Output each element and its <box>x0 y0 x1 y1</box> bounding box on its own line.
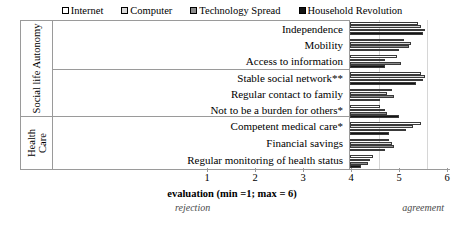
bar-row <box>350 103 450 120</box>
bar-2 <box>350 62 401 65</box>
legend-swatch-technology-spread <box>190 7 197 14</box>
group-row-social-life-autonomy: Social life Autonomy Independence Mobili… <box>21 21 349 117</box>
bar-0 <box>350 122 421 125</box>
category-label-mobility: Mobility <box>53 37 349 53</box>
bar-0 <box>350 155 373 158</box>
bar-row <box>350 87 450 104</box>
bar-0 <box>350 105 380 108</box>
group-title-health-care: Health Care <box>21 117 53 169</box>
category-label-competent-medical-care: Competent medical care* <box>53 118 349 134</box>
bars-container <box>350 20 450 170</box>
category-label-regular-monitoring: Regular monitoring of health status <box>53 152 349 168</box>
bar-1 <box>350 42 411 45</box>
legend-item-computer: Computer <box>121 5 172 16</box>
x-tickmark-3 <box>303 168 304 172</box>
x-tick-6: 6 <box>444 172 449 184</box>
group-title-label: Social life Autonomy <box>31 24 42 114</box>
bar-0 <box>350 22 418 25</box>
bar-0 <box>350 55 397 58</box>
bar-3 <box>350 115 399 118</box>
category-label-not-to-be-a-burden: Not to be a burden for others* <box>53 102 349 118</box>
chart-legend: Internet Computer Technology Spread Hous… <box>0 3 464 17</box>
legend-item-internet: Internet <box>62 5 104 16</box>
bar-2 <box>350 45 409 48</box>
legend-label-computer: Computer <box>130 5 172 16</box>
bars-area <box>350 20 450 170</box>
legend-item-household-revolution: Household Revolution <box>299 5 403 16</box>
bar-2 <box>350 129 406 132</box>
anchor-agreement: agreement <box>402 202 444 214</box>
group-category-list-social: Independence Mobility Access to informat… <box>53 21 349 116</box>
category-label-regular-contact-to-family: Regular contact to family <box>53 86 349 102</box>
bar-row <box>350 153 450 170</box>
group-category-list-health: Competent medical care* Financial saving… <box>53 117 349 169</box>
anchor-rejection: rejection <box>175 202 210 214</box>
bar-1 <box>350 125 413 128</box>
category-label-access-to-information: Access to information <box>53 53 349 69</box>
bar-1 <box>350 25 421 28</box>
bar-2 <box>350 29 425 32</box>
bar-row <box>350 137 450 154</box>
bar-1 <box>350 75 425 78</box>
bar-3 <box>350 49 399 52</box>
plot-area: Social life Autonomy Independence Mobili… <box>20 20 450 172</box>
bar-2 <box>350 95 394 98</box>
category-label-independence: Independence <box>53 21 349 37</box>
x-tick-3: 3 <box>300 172 305 184</box>
x-tickmark-6 <box>447 168 448 172</box>
axis-line-bottom <box>350 169 450 170</box>
bar-row <box>350 20 450 37</box>
bar-2 <box>350 162 368 165</box>
bar-2 <box>350 79 423 82</box>
x-tick-4: 4 <box>348 172 353 184</box>
x-tick-1: 1 <box>204 172 209 184</box>
category-label-stable-social-network: Stable social network** <box>53 69 349 86</box>
group-title-line-2: Care <box>37 133 48 153</box>
category-label-financial-savings: Financial savings <box>53 135 349 151</box>
bar-row <box>350 70 450 87</box>
category-label-panel: Social life Autonomy Independence Mobili… <box>20 20 350 170</box>
bar-0 <box>350 89 392 92</box>
bar-2 <box>350 145 394 148</box>
bar-2 <box>350 112 387 115</box>
x-tick-5: 5 <box>396 172 401 184</box>
group-title-line-1: Health <box>26 129 37 157</box>
bar-0 <box>350 139 389 142</box>
x-tickmark-5 <box>399 168 400 172</box>
bar-0 <box>350 72 421 75</box>
bar-3 <box>350 132 389 135</box>
bar-3 <box>350 99 380 102</box>
group-title-social-life-autonomy: Social life Autonomy <box>21 21 53 116</box>
legend-swatch-computer <box>121 7 128 14</box>
bar-1 <box>350 92 387 95</box>
legend-swatch-internet <box>62 7 69 14</box>
bar-3 <box>350 65 385 68</box>
legend-label-technology-spread: Technology Spread <box>199 5 280 16</box>
bar-row <box>350 37 450 54</box>
bar-1 <box>350 59 385 62</box>
x-tickmark-1 <box>207 168 208 172</box>
bar-1 <box>350 109 385 112</box>
bar-1 <box>350 142 392 145</box>
group-title-label-stack: Health Care <box>26 129 48 157</box>
legend-swatch-household-revolution <box>299 7 306 14</box>
x-axis: 123456 <box>20 172 450 186</box>
bar-3 <box>350 32 423 35</box>
bar-1 <box>350 159 370 162</box>
legend-label-internet: Internet <box>71 5 104 16</box>
group-row-health-care: Health Care Competent medical care* Fina… <box>21 117 349 169</box>
legend-item-technology-spread: Technology Spread <box>190 5 280 16</box>
x-tickmark-2 <box>255 168 256 172</box>
x-tick-2: 2 <box>252 172 257 184</box>
chart-root: Internet Computer Technology Spread Hous… <box>0 0 464 227</box>
x-tickmark-4 <box>351 168 352 172</box>
bar-3 <box>350 82 416 85</box>
bar-row <box>350 120 450 137</box>
legend-label-household-revolution: Household Revolution <box>308 5 403 16</box>
bar-3 <box>350 149 385 152</box>
bar-row <box>350 53 450 70</box>
bar-0 <box>350 39 404 42</box>
x-axis-title: evaluation (min =1; max = 6) <box>0 188 464 200</box>
